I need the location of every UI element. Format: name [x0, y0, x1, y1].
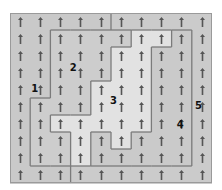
- region-label-1: 1: [31, 83, 38, 94]
- region-label-3: 3: [110, 95, 117, 106]
- region-label-4: 4: [177, 119, 184, 130]
- region-label-2: 2: [70, 62, 77, 73]
- region-label-5: 5: [195, 100, 202, 111]
